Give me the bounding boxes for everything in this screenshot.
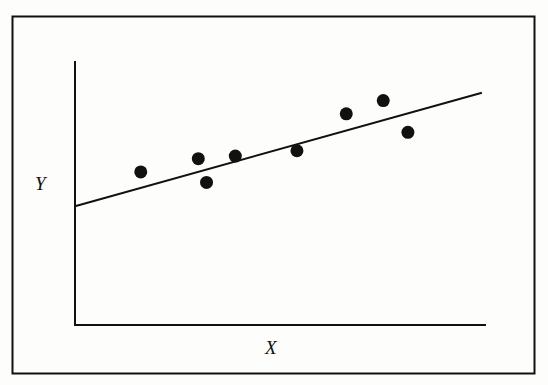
scatter-plot — [0, 0, 548, 385]
data-point — [340, 107, 353, 120]
data-point — [229, 150, 242, 163]
data-point — [200, 176, 213, 189]
regression-line — [75, 93, 482, 207]
data-points — [134, 94, 414, 189]
y-axis-label: Y — [35, 173, 46, 195]
outer-frame — [13, 17, 535, 374]
data-point — [134, 165, 147, 178]
data-point — [401, 126, 414, 139]
x-axis-label: X — [265, 337, 277, 359]
data-point — [377, 94, 390, 107]
data-point — [290, 144, 303, 157]
data-point — [192, 152, 205, 165]
